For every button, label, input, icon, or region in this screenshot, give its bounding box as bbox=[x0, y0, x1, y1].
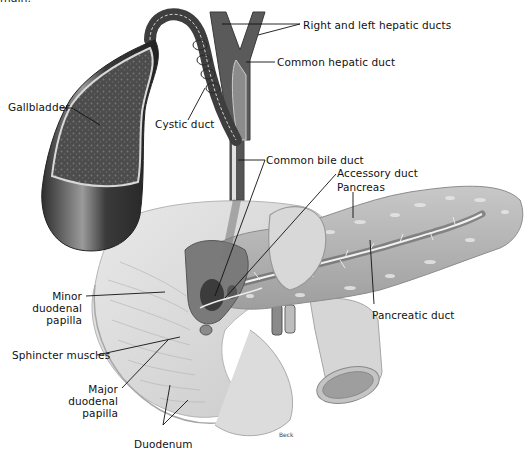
label-common-hepatic-duct: Common hepatic duct bbox=[277, 56, 395, 68]
major-papilla-shape bbox=[200, 325, 212, 335]
label-minor-line-1: Minor bbox=[30, 290, 82, 302]
label-common-bile-duct: Common bile duct bbox=[266, 154, 364, 166]
label-sphincter-muscles: Sphincter muscles bbox=[12, 349, 110, 361]
label-minor-line-3: papilla bbox=[30, 314, 82, 326]
label-cystic-duct: Cystic duct bbox=[155, 118, 214, 130]
label-right-left-hepatic-ducts: Right and left hepatic ducts bbox=[303, 19, 451, 31]
label-accessory-duct: Accessory duct bbox=[337, 167, 418, 179]
artist-signature: Beck bbox=[279, 431, 294, 438]
mesenteric-vessels bbox=[272, 305, 295, 335]
label-duodenum: Duodenum bbox=[134, 438, 193, 450]
label-pancreas: Pancreas bbox=[337, 181, 385, 193]
hepatic-ducts-shape bbox=[210, 12, 265, 140]
label-major-line-3: papilla bbox=[66, 407, 118, 419]
label-major-duodenal-papilla: Major duodenal papilla bbox=[66, 383, 118, 419]
label-gallbladder: Gallbladder bbox=[8, 101, 70, 113]
label-major-line-2: duodenal bbox=[66, 395, 118, 407]
label-major-line-1: Major bbox=[66, 383, 118, 395]
label-pancreatic-duct: Pancreatic duct bbox=[372, 309, 455, 321]
label-minor-duodenal-papilla: Minor duodenal papilla bbox=[30, 290, 82, 326]
label-minor-line-2: duodenal bbox=[30, 302, 82, 314]
cut-off-caption: main. bbox=[0, 0, 31, 5]
anatomy-figure: main. bbox=[0, 0, 527, 462]
